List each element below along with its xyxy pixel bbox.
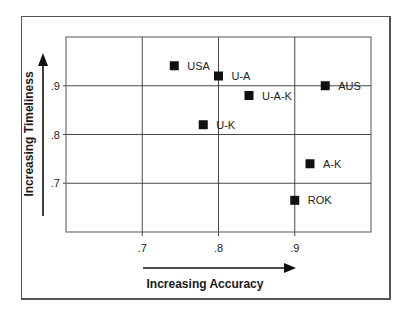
point-label: U-K xyxy=(216,119,236,131)
data-point: ROK xyxy=(290,194,332,206)
y-tick-label: .8 xyxy=(51,129,60,141)
y-axis-arrow-icon xyxy=(38,53,48,216)
x-tick-label: .9 xyxy=(290,242,299,254)
x-tick-label: .8 xyxy=(214,242,223,254)
square-marker-icon xyxy=(290,196,299,205)
square-marker-icon xyxy=(214,72,223,81)
data-point: U-A-K xyxy=(245,90,293,102)
data-points: USAU-AU-A-KU-KAUSA-KROK xyxy=(170,60,361,207)
point-label: AUS xyxy=(338,80,361,92)
x-axis-label: Increasing Accuracy xyxy=(147,277,264,291)
point-label: USA xyxy=(187,60,210,72)
point-label: U-A-K xyxy=(262,90,293,102)
y-axis-label: Increasing Timeliness xyxy=(22,71,36,196)
square-marker-icon xyxy=(321,81,330,90)
y-tick-label: .9 xyxy=(51,80,60,92)
square-marker-icon xyxy=(306,159,315,168)
scatter-chart: .7.8.9 .7.8.9 USAU-AU-A-KU-KAUSA-KROK In… xyxy=(0,0,412,318)
point-label: A-K xyxy=(323,158,342,170)
data-point: AUS xyxy=(321,80,361,92)
square-marker-icon xyxy=(245,91,254,100)
data-point: USA xyxy=(170,60,211,72)
x-axis-ticks: .7.8.9 xyxy=(138,242,300,254)
y-axis-ticks: .7.8.9 xyxy=(51,80,60,190)
square-marker-icon xyxy=(199,120,208,129)
x-tick-label: .7 xyxy=(138,242,147,254)
data-point: A-K xyxy=(306,158,343,170)
point-label: ROK xyxy=(308,194,333,206)
data-point: U-K xyxy=(199,119,236,131)
x-axis-arrow-icon xyxy=(143,263,296,273)
point-label: U-A xyxy=(232,70,252,82)
data-point: U-A xyxy=(214,70,251,82)
square-marker-icon xyxy=(170,61,179,70)
y-tick-label: .7 xyxy=(51,177,60,189)
